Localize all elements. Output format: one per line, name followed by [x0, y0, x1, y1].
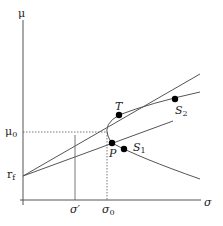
- mu0-label: μ0: [5, 125, 17, 139]
- rf-p-line: [23, 121, 173, 176]
- point-S2: [172, 96, 178, 102]
- x-axis-label: σ: [204, 196, 212, 209]
- point-S1: [121, 146, 127, 152]
- point-P: [109, 140, 115, 146]
- frontier-upper: [119, 92, 200, 115]
- P-label: P: [108, 147, 117, 160]
- sigma0-label: σ0: [102, 203, 115, 217]
- T-label: T: [115, 100, 124, 113]
- y-axis-label: μ: [18, 7, 25, 20]
- frontier-curve: [107, 115, 119, 143]
- diagram: μ σ rf μ0 σ′ σ0 T S2 P S1: [0, 0, 223, 226]
- rf-label: rf: [7, 168, 16, 182]
- S1-label: S1: [133, 141, 146, 155]
- sigma-prime-label: σ′: [70, 203, 81, 216]
- capital-market-line: [23, 74, 200, 176]
- S2-label: S2: [175, 104, 188, 118]
